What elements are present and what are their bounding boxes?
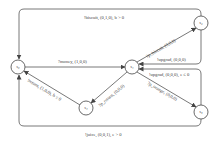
node-label-s1: s₁ [130, 64, 134, 69]
edge-s1-s3 [137, 72, 196, 107]
node-s2: s₂ [194, 16, 208, 30]
node-s4: s₄ [79, 101, 93, 115]
node-label-s4: s₄ [84, 105, 88, 110]
edge-label-s0-s1: ?money, (1,0,0) [58, 59, 87, 65]
node-s0: s₀ [11, 60, 25, 74]
edge-label-s1-s4: ?p_return, (0,0,0) [97, 83, 126, 109]
node-label-s0: s₀ [16, 64, 20, 69]
state-diagram: !biscuit, (0,1,0), b > 0 ?money, (1,0,0)… [0, 0, 219, 144]
node-s1: s₁ [125, 60, 139, 74]
node-label-s3: s₃ [199, 109, 203, 114]
edge-s4-s0 [24, 71, 80, 105]
edge-label-s2-s1: !upgrad, (0,0,0) [157, 57, 186, 63]
edge-label-s4-s0: !return, (1,0,0), b ≤ 0 [26, 78, 63, 103]
edge-label-s3-s0: !juice, (0,0,1), e > 0 [85, 132, 122, 138]
edge-label-s3-s1: !upgrad, (0,0,0), e ≤ 0 [149, 72, 190, 78]
node-label-s2: s₂ [199, 20, 203, 25]
edge-label-s1-s3: ?p_orange, (0,0,0) [146, 81, 179, 103]
node-s3: s₃ [194, 105, 208, 119]
edge-label-s2-s0: !biscuit, (0,1,0), b > 0 [84, 15, 125, 21]
